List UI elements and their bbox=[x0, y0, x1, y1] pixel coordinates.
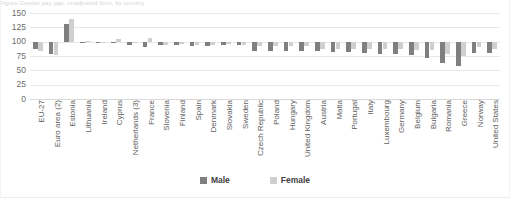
bar-group bbox=[140, 13, 156, 99]
plot-area bbox=[30, 13, 500, 99]
x-axis-tick-label: Portugal bbox=[348, 100, 356, 130]
bar-group bbox=[218, 13, 234, 99]
legend-label: Male bbox=[211, 176, 230, 185]
bar-male bbox=[425, 42, 430, 58]
bar-group bbox=[281, 13, 297, 99]
x-axis-tick-label: Slovakia bbox=[223, 100, 231, 130]
bar-female bbox=[179, 42, 184, 44]
x-axis-tick-label: France bbox=[145, 100, 153, 125]
bar-group bbox=[155, 13, 171, 99]
bar-male bbox=[393, 42, 398, 55]
x-axis-tick-label: United Kingdom bbox=[301, 100, 309, 157]
bar-male bbox=[456, 42, 461, 67]
bar-female bbox=[85, 41, 90, 42]
bar-male bbox=[378, 42, 383, 54]
bar-male bbox=[96, 42, 101, 43]
x-axis-tick-label: Ireland bbox=[98, 100, 106, 124]
bar-male bbox=[237, 42, 242, 45]
y-axis-tick-label: 75 bbox=[0, 52, 26, 61]
bar-male bbox=[111, 42, 116, 43]
frame-bottom-border bbox=[0, 197, 510, 198]
legend-item-female[interactable]: Female bbox=[270, 176, 310, 185]
bar-female bbox=[492, 42, 497, 49]
bar-female bbox=[226, 42, 231, 44]
bars-layer bbox=[30, 13, 500, 99]
bar-group bbox=[406, 13, 422, 99]
chart-legend: MaleFemale bbox=[0, 176, 510, 185]
bar-group bbox=[93, 13, 109, 99]
bar-female bbox=[54, 42, 59, 55]
bar-group bbox=[124, 13, 140, 99]
bar-group bbox=[108, 13, 124, 99]
bar-group bbox=[171, 13, 187, 99]
bar-group bbox=[484, 13, 500, 99]
x-axis-tick-label: Czech Republic bbox=[254, 100, 262, 156]
bar-female bbox=[367, 42, 372, 49]
bar-male bbox=[174, 42, 179, 45]
bar-male bbox=[80, 42, 85, 43]
bar-group bbox=[343, 13, 359, 99]
bar-male bbox=[49, 42, 54, 55]
x-axis-labels: EU-27Euro area (2)EstoniaLithuaniaIrelan… bbox=[30, 100, 500, 170]
bar-group bbox=[187, 13, 203, 99]
bar-male bbox=[299, 42, 304, 51]
x-axis-tick-label: Luxembourg bbox=[380, 100, 388, 144]
y-axis-tick-label: 50 bbox=[0, 66, 26, 75]
bar-group bbox=[249, 13, 265, 99]
bar-group bbox=[265, 13, 281, 99]
bar-male bbox=[205, 42, 210, 46]
bar-female bbox=[273, 42, 278, 47]
x-axis-tick-label: Denmark bbox=[207, 100, 215, 132]
x-axis-tick-label: Austria bbox=[317, 100, 325, 125]
bar-male bbox=[487, 42, 492, 53]
legend-swatch-icon bbox=[270, 177, 277, 184]
bar-male bbox=[64, 24, 69, 41]
bar-male bbox=[268, 42, 273, 51]
bar-female bbox=[101, 42, 106, 43]
bar-female bbox=[461, 42, 466, 56]
x-axis-tick-label: Malta bbox=[333, 100, 341, 120]
bar-female bbox=[289, 42, 294, 47]
bar-female bbox=[320, 42, 325, 49]
x-axis-tick-label: Romania bbox=[442, 100, 450, 132]
grouped-bar-chart: Figure Gender pay gap, unadjusted form, … bbox=[0, 0, 510, 198]
x-axis-tick-label: United States bbox=[489, 100, 497, 148]
y-axis-tick-label: 125 bbox=[0, 23, 26, 32]
legend-item-male[interactable]: Male bbox=[200, 176, 230, 185]
bar-female bbox=[163, 42, 168, 45]
bar-group bbox=[469, 13, 485, 99]
bar-group bbox=[375, 13, 391, 99]
bar-female bbox=[304, 42, 309, 47]
x-axis-tick-label: Belgium bbox=[411, 100, 419, 129]
bar-female bbox=[414, 42, 419, 50]
y-axis-tick-label: 100 bbox=[0, 37, 26, 46]
y-axis-tick-label: 0 bbox=[0, 95, 26, 104]
x-axis-tick-label: Italy bbox=[364, 100, 372, 115]
bar-male bbox=[409, 42, 414, 55]
chart-title-strip: Figure Gender pay gap, unadjusted form, … bbox=[0, 0, 510, 6]
bar-female bbox=[210, 42, 215, 45]
x-axis-tick-label: Hungary bbox=[286, 100, 294, 130]
y-axis-tick-label: 150 bbox=[0, 9, 26, 18]
bar-female bbox=[398, 42, 403, 49]
bar-male bbox=[284, 42, 289, 51]
bar-male bbox=[143, 42, 148, 47]
bar-male bbox=[440, 42, 445, 64]
bar-group bbox=[61, 13, 77, 99]
x-axis-tick-label: Greece bbox=[458, 100, 466, 126]
bar-male bbox=[190, 42, 195, 46]
bar-group bbox=[390, 13, 406, 99]
legend-label: Female bbox=[281, 176, 310, 185]
bar-group bbox=[30, 13, 46, 99]
bar-male bbox=[158, 42, 163, 45]
x-axis-tick-label: Netherlands (3) bbox=[129, 100, 137, 155]
x-axis-tick-label: Cyprus bbox=[113, 100, 121, 125]
bar-male bbox=[331, 42, 336, 52]
bar-male bbox=[346, 42, 351, 52]
x-axis-tick-label: EU-27 bbox=[35, 100, 43, 123]
x-axis-tick-label: Sweden bbox=[239, 100, 247, 129]
bar-group bbox=[359, 13, 375, 99]
bar-female bbox=[132, 42, 137, 43]
bar-female bbox=[38, 42, 43, 51]
bar-group bbox=[422, 13, 438, 99]
